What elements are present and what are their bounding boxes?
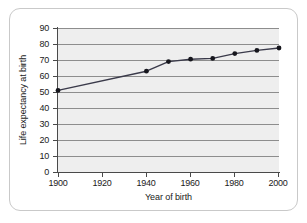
data-point [277, 46, 282, 51]
data-point [232, 51, 237, 56]
line-chart: 90 80 70 60 50 40 30 20 10 0 1900 1920 1… [0, 0, 307, 223]
data-point [166, 59, 171, 64]
data-point [56, 88, 61, 93]
data-point [188, 57, 193, 62]
data-point [210, 56, 215, 61]
data-point [144, 69, 149, 74]
series-line-life-expectancy [58, 48, 279, 90]
series-layer [0, 0, 307, 223]
data-point [255, 48, 260, 53]
series-markers [56, 46, 282, 93]
